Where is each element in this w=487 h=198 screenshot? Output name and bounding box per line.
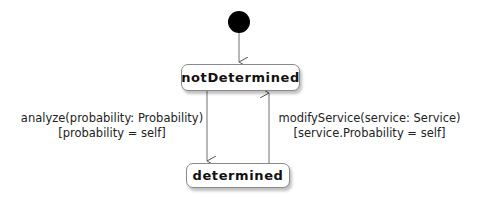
state-not-determined-label: notDetermined — [181, 70, 300, 85]
state-determined[interactable]: determined — [186, 163, 290, 188]
analyze-guard: [probability = self] — [18, 126, 206, 141]
modify-service-transition-label: modifyService(service: Service) [service… — [272, 111, 467, 141]
analyze-transition-label: analyze(probability: Probability) [proba… — [18, 111, 206, 141]
modify-service-guard: [service.Probability = self] — [272, 126, 467, 141]
state-not-determined[interactable]: notDetermined — [181, 64, 300, 91]
state-determined-label: determined — [193, 168, 284, 183]
initial-state-node — [228, 11, 250, 33]
analyze-trigger: analyze(probability: Probability) — [18, 111, 206, 126]
modify-service-trigger: modifyService(service: Service) — [272, 111, 467, 126]
